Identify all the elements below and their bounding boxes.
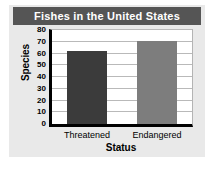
y-axis-tick-labels: 80706050403020100: [27, 29, 46, 127]
y-tick-label: 60: [27, 50, 46, 58]
y-tick-label: 80: [27, 26, 46, 34]
chart-title-bar: Fishes in the United States: [13, 7, 201, 25]
y-tick-label: 50: [27, 61, 46, 69]
y-tick-label: 0: [27, 120, 46, 128]
chart-figure: Fishes in the United States Species 8070…: [0, 0, 211, 170]
x-tick-label: Endangered: [122, 130, 192, 140]
bar-threatened: [67, 51, 108, 124]
x-tick-label: Threatened: [52, 130, 122, 140]
x-axis-title: Status: [49, 142, 193, 153]
y-tick-label: 10: [27, 108, 46, 116]
plot-area: [49, 29, 193, 127]
y-tick-label: 70: [27, 38, 46, 46]
bar-series: [52, 30, 192, 124]
y-tick-label: 30: [27, 85, 46, 93]
chart-title: Fishes in the United States: [34, 10, 180, 22]
chart-panel: Fishes in the United States Species 8070…: [9, 5, 205, 157]
bar-endangered: [137, 41, 178, 124]
y-tick-label: 40: [27, 73, 46, 81]
y-tick-label: 20: [27, 97, 46, 105]
x-axis-tick-labels: ThreatenedEndangered: [49, 130, 193, 142]
